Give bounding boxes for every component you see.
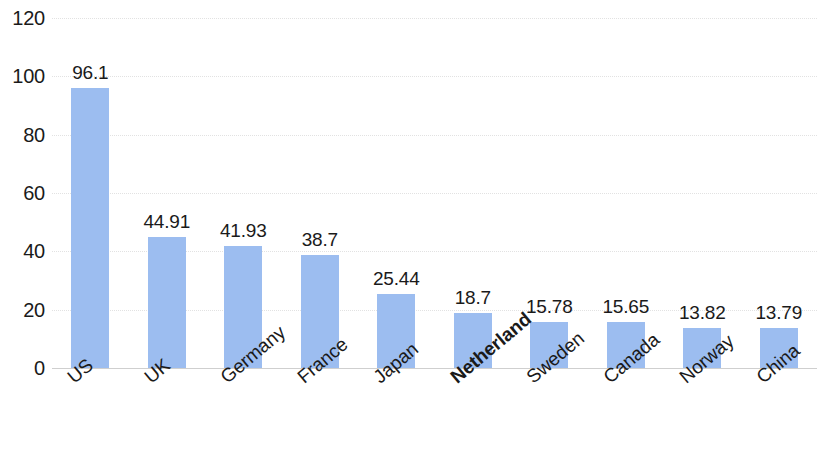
- x-axis-tick-japan: Japan: [370, 372, 421, 392]
- bar-value-label: 13.79: [755, 303, 802, 322]
- y-axis-tick-label: 20: [1, 300, 45, 320]
- bar-slot: 96.1: [52, 18, 129, 368]
- bar-value-label: 96.1: [72, 63, 108, 82]
- bar-slot: 13.79: [741, 18, 817, 368]
- bar-slot: 41.93: [205, 18, 282, 368]
- y-axis-tick-label: 0: [1, 358, 45, 378]
- x-axis-tick-canada: Canada: [600, 372, 666, 392]
- bar-uk[interactable]: [148, 237, 186, 368]
- bar-slot: 15.65: [588, 18, 665, 368]
- x-axis-tick-norway: Norway: [676, 372, 740, 392]
- bar-value-label: 41.93: [220, 221, 267, 240]
- x-axis-tick-france: France: [294, 372, 353, 392]
- y-axis-tick-label: 120: [1, 8, 45, 28]
- x-axis: USUKGermanyFranceJapanNetherlandSwedenCa…: [52, 372, 817, 451]
- bar-series: 96.144.9141.9338.725.4418.715.7815.6513.…: [52, 18, 817, 368]
- x-axis-tick-germany: Germany: [217, 372, 294, 392]
- bar-value-label: 15.78: [526, 297, 573, 316]
- x-axis-tick-sweden: Sweden: [523, 372, 591, 392]
- y-axis-tick-label: 60: [1, 183, 45, 203]
- y-axis: 020406080100120: [0, 18, 45, 368]
- x-axis-tick-china: China: [753, 372, 802, 392]
- y-axis-tick-label: 40: [1, 241, 45, 261]
- x-axis-tick-uk: UK: [141, 372, 167, 392]
- bar-slot: 18.7: [435, 18, 512, 368]
- bar-value-label: 18.7: [455, 288, 491, 307]
- bar-slot: 13.82: [664, 18, 741, 368]
- bar-value-label: 13.82: [679, 303, 726, 322]
- bar-slot: 44.91: [129, 18, 206, 368]
- x-axis-tick-us: US: [64, 372, 90, 392]
- bar-us[interactable]: [71, 88, 109, 368]
- bar-chart: 020406080100120 96.144.9141.9338.725.441…: [0, 0, 817, 451]
- bar-value-label: 38.7: [302, 230, 338, 249]
- bar-slot: 38.7: [282, 18, 359, 368]
- bar-slot: 25.44: [358, 18, 435, 368]
- y-axis-tick-label: 100: [1, 66, 45, 86]
- y-axis-tick-label: 80: [1, 125, 45, 145]
- bar-value-label: 44.91: [143, 212, 190, 231]
- bar-value-label: 15.65: [602, 297, 649, 316]
- bar-value-label: 25.44: [373, 269, 420, 288]
